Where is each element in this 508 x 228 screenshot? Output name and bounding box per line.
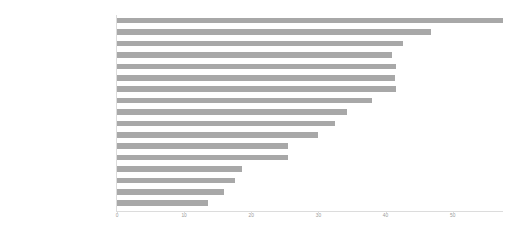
x-axis-line xyxy=(116,211,503,212)
bar-chart: Vin Scully LAN 50-08Jack Buck SLN 54-59,… xyxy=(0,0,508,228)
bar-row: Lou Boudreau CHN 58-87 xyxy=(117,129,503,140)
bar-row: Bob Murphy NYN 62-03 xyxy=(117,38,503,49)
bar-row: Russ Hodges SFN 49-70 xyxy=(117,95,503,106)
bar[interactable] xyxy=(117,18,503,24)
bar[interactable] xyxy=(117,189,224,195)
bar-row: Joe Nuxhall CIN 68-07 xyxy=(117,49,503,60)
bar[interactable] xyxy=(117,86,396,92)
x-tick-label: 40 xyxy=(383,213,388,218)
bar[interactable] xyxy=(117,29,431,35)
x-tick-label: 10 xyxy=(181,213,186,218)
bar[interactable] xyxy=(117,52,392,58)
bar-row: Dave Van Horne FLO 01-14 xyxy=(117,186,503,197)
bar-row: Jerry Coleman SDN 72-78, 80-13 xyxy=(117,61,503,72)
bar[interactable] xyxy=(117,143,288,149)
bar[interactable] xyxy=(117,41,403,47)
bar-row xyxy=(117,198,503,209)
bar-row: Jeff Kingery COL 93-09 xyxy=(117,163,503,174)
bar[interactable] xyxy=(117,75,395,81)
bar-row: Bob Uecker MIL 73-14 xyxy=(117,72,503,83)
bar[interactable] xyxy=(117,132,318,138)
bar-row: Greg Schulte ARI 98-14 xyxy=(117,175,503,186)
bar-row: Vin Scully LAN 50-08 xyxy=(117,15,503,26)
bar[interactable] xyxy=(117,166,242,172)
x-tick-label: 20 xyxy=(249,213,254,218)
chart-title xyxy=(0,0,508,4)
x-tick-label: 50 xyxy=(450,213,455,218)
bar-row: Skip Caray ATL 90-07 xyxy=(117,152,503,163)
bar[interactable] xyxy=(117,64,396,70)
bar[interactable] xyxy=(117,178,235,184)
bar[interactable] xyxy=(117,109,347,115)
bar-row: HOU Gene Elston 62-86/Milo Hamilton 87-1… xyxy=(117,141,503,152)
bar[interactable] xyxy=(117,98,372,104)
bar[interactable] xyxy=(117,155,288,161)
bar[interactable] xyxy=(117,200,208,206)
x-tick-label: 30 xyxy=(316,213,321,218)
bar-row: Jack Buck SLN 54-59, 61-75, 77-01 xyxy=(117,26,503,37)
bar-row: Lanny Frattare PIT 76-08 xyxy=(117,106,503,117)
x-tick-label: 0 xyxy=(116,213,119,218)
plot-area: Vin Scully LAN 50-08Jack Buck SLN 54-59,… xyxy=(117,15,503,209)
bar[interactable] xyxy=(117,121,335,127)
bar-row: Harry Kalas PHI 71-08 xyxy=(117,83,503,94)
bar-row: Dave Van Horne MON/WAS 69-00 xyxy=(117,118,503,129)
